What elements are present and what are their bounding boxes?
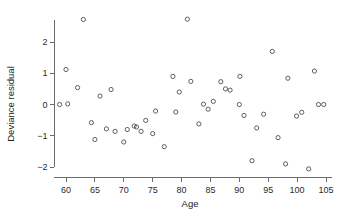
data-point [151, 131, 155, 135]
data-point [250, 159, 254, 163]
data-point [276, 136, 280, 140]
data-point [307, 167, 311, 171]
data-point [174, 110, 178, 114]
data-point [286, 76, 290, 80]
data-point [312, 69, 316, 73]
x-axis: 6065707580859095100105 [54, 178, 333, 195]
data-point [242, 113, 246, 117]
data-point [104, 127, 108, 131]
x-tick-label: 60 [61, 185, 71, 195]
data-point [109, 87, 113, 91]
plot-canvas: 210−1−2 6065707580859095100105 Age Devia… [0, 0, 341, 220]
data-point [125, 127, 129, 131]
data-point [197, 122, 201, 126]
x-tick-label: 65 [90, 185, 100, 195]
data-point [171, 74, 175, 78]
x-tick-label: 80 [177, 185, 187, 195]
data-point [316, 102, 320, 106]
data-point [98, 94, 102, 98]
data-point [322, 102, 326, 106]
data-point [58, 102, 62, 106]
data-point [113, 129, 117, 133]
data-point [153, 109, 157, 113]
data-point [283, 162, 287, 166]
data-point [255, 126, 259, 130]
y-axis-title: Deviance residual [5, 66, 16, 142]
data-point [185, 17, 189, 21]
x-tick-label: 100 [290, 185, 305, 195]
y-axis: 210−1−2 [37, 20, 54, 172]
data-point [201, 102, 205, 106]
data-point [294, 114, 298, 118]
data-point [189, 79, 193, 83]
data-point [238, 74, 242, 78]
data-points-layer [58, 17, 326, 171]
x-tick-label: 85 [205, 185, 215, 195]
data-point [81, 17, 85, 21]
x-tick-label: 90 [234, 185, 244, 195]
data-point [64, 67, 68, 71]
y-tick-label: 0 [42, 100, 47, 110]
deviance-residual-scatter-plot: 210−1−2 6065707580859095100105 Age Devia… [0, 0, 341, 220]
data-point [66, 102, 70, 106]
y-tick-label: −1 [37, 131, 47, 141]
data-point [262, 112, 266, 116]
data-point [162, 145, 166, 149]
data-point [139, 129, 143, 133]
data-point [89, 121, 93, 125]
y-tick-label: −2 [37, 162, 47, 172]
data-point [228, 88, 232, 92]
data-point [211, 99, 215, 103]
data-point [237, 102, 241, 106]
data-point [206, 107, 210, 111]
x-tick-label: 105 [318, 185, 333, 195]
data-point [93, 137, 97, 141]
y-tick-label: 1 [42, 68, 47, 78]
x-tick-label: 95 [263, 185, 273, 195]
data-point [219, 80, 223, 84]
data-point [122, 140, 126, 144]
data-point [300, 110, 304, 114]
x-tick-label: 75 [148, 185, 158, 195]
x-tick-label: 70 [119, 185, 129, 195]
data-point [177, 90, 181, 94]
data-point [270, 49, 274, 53]
data-point [75, 86, 79, 90]
y-tick-label: 2 [42, 37, 47, 47]
x-axis-title: Age [182, 198, 199, 209]
data-point [144, 118, 148, 122]
data-point [223, 87, 227, 91]
